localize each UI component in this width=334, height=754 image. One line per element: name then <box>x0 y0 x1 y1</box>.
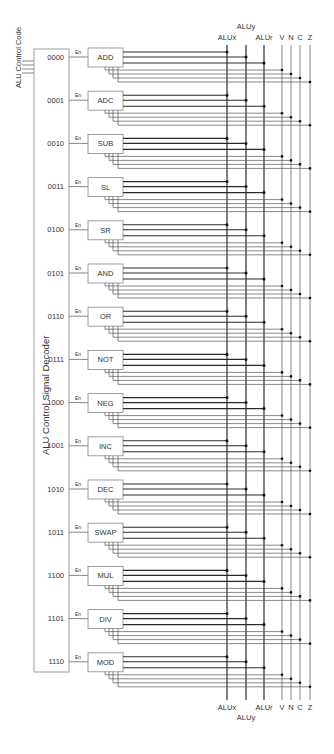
junction-dot <box>290 332 293 335</box>
junction-dot <box>263 580 266 583</box>
junction-dot <box>245 272 248 275</box>
unit-name: ADD <box>98 53 114 62</box>
enable-label: En <box>75 179 81 185</box>
junction-dot <box>226 223 229 226</box>
junction-dot <box>281 414 284 417</box>
alu-unit-dec: 1010EnDEC <box>47 480 311 515</box>
junction-dot <box>226 137 229 140</box>
decoder-output-code: 0100 <box>47 225 64 234</box>
flag-output-line <box>113 542 300 553</box>
alu-unit-not: 0111EnNOT <box>48 350 311 385</box>
bus-label-top-aluy: ALUy <box>237 22 256 31</box>
junction-dot <box>245 358 248 361</box>
junction-dot <box>263 623 266 626</box>
junction-dot <box>290 73 293 76</box>
decoder-output-code: 1010 <box>47 485 64 494</box>
junction-dot <box>290 678 293 681</box>
decoder-output-code: 0011 <box>48 182 64 191</box>
junction-dot <box>309 599 312 602</box>
junction-dot <box>281 242 284 245</box>
junction-dot <box>299 682 302 685</box>
decoder-output-code: 1001 <box>47 441 64 450</box>
bus-label-top-z: Z <box>308 33 313 42</box>
unit-name: ADC <box>98 96 114 105</box>
junction-dot <box>309 642 312 645</box>
junction-dot <box>226 655 229 658</box>
junction-dot <box>299 163 302 166</box>
flag-output-line <box>105 153 282 156</box>
junction-dot <box>281 501 284 504</box>
alu-unit-swap: 1011EnSWAP <box>48 523 311 558</box>
enable-label: En <box>75 481 81 487</box>
junction-dot <box>245 56 248 59</box>
junction-dot <box>226 94 229 97</box>
alu-unit-and: 0101EnAND <box>47 264 311 299</box>
junction-dot <box>309 254 312 257</box>
junction-dot <box>263 191 266 194</box>
enable-label: En <box>75 92 81 98</box>
junction-dot <box>290 116 293 119</box>
flag-output-line <box>113 197 300 208</box>
junction-dot <box>281 587 284 590</box>
decoder-output-code: 1100 <box>48 571 64 580</box>
junction-dot <box>226 526 229 529</box>
flag-output-line <box>105 585 282 588</box>
junction-dot <box>299 77 302 80</box>
junction-dot <box>281 328 284 331</box>
bus-label-bottom-z: Z <box>308 703 313 712</box>
junction-dot <box>226 396 229 399</box>
junction-dot <box>299 336 302 339</box>
unit-name: AND <box>98 269 114 278</box>
alu-unit-or: 0110EnOR <box>48 307 311 342</box>
alu-unit-sub: 0010EnSUB <box>47 134 311 169</box>
enable-label: En <box>75 135 81 141</box>
bus-label-bottom-alur: ALUr <box>255 703 273 712</box>
enable-label: En <box>75 524 81 530</box>
junction-dot <box>309 686 312 689</box>
junction-dot <box>226 180 229 183</box>
junction-dot <box>263 494 266 497</box>
flag-output-line <box>113 326 300 337</box>
flag-output-line <box>113 67 300 78</box>
junction-dot <box>281 458 284 461</box>
junction-dot <box>281 112 284 115</box>
junction-dot <box>299 466 302 469</box>
junction-dot <box>245 660 248 663</box>
flag-output-line <box>113 413 300 424</box>
flag-output-line <box>105 326 282 329</box>
flag-output-line <box>105 629 282 632</box>
bus-label-top-alux: ALUx <box>218 33 237 42</box>
decoder-label: ALU Control Signal Decoder <box>40 336 51 455</box>
junction-dot <box>290 505 293 508</box>
junction-dot <box>245 99 248 102</box>
flag-output-line <box>105 369 282 372</box>
enable-label: En <box>75 438 81 444</box>
alu-unit-inc: 1001EnINC <box>47 437 311 472</box>
junction-dot <box>263 105 266 108</box>
flag-output-line <box>113 240 300 251</box>
junction-dot <box>226 51 229 54</box>
decoder-output-code: 0000 <box>47 53 64 62</box>
decoder-output-code: 0101 <box>47 269 64 278</box>
junction-dot <box>299 250 302 253</box>
enable-label: En <box>75 265 81 271</box>
alu-unit-adc: 0001EnADC <box>47 91 311 126</box>
junction-dot <box>290 462 293 465</box>
junction-dot <box>299 638 302 641</box>
enable-label: En <box>75 308 81 314</box>
bus-label-top-n: N <box>288 33 293 42</box>
junction-dot <box>299 379 302 382</box>
unit-name: SR <box>100 226 111 235</box>
junction-dot <box>281 198 284 201</box>
junction-dot <box>245 228 248 231</box>
enable-label: En <box>75 222 81 228</box>
unit-name: MUL <box>98 571 114 580</box>
junction-dot <box>263 407 266 410</box>
flag-output-line <box>105 283 282 286</box>
flag-output-line <box>113 672 300 683</box>
bus-label-bottom-c: C <box>297 703 303 712</box>
junction-dot <box>245 142 248 145</box>
flag-output-line <box>105 240 282 243</box>
decoder-output-code: 1000 <box>47 398 64 407</box>
junction-dot <box>290 548 293 551</box>
